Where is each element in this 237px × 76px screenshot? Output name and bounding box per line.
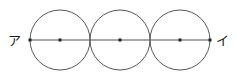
center-dot-middle xyxy=(119,39,122,42)
geometry-figure: ア イ xyxy=(0,0,237,76)
endpoint-dot-right xyxy=(209,39,212,42)
label-point-i: イ xyxy=(216,33,229,48)
label-point-a: ア xyxy=(8,33,21,48)
figure-canvas: ア イ xyxy=(0,0,237,76)
endpoint-dot-left xyxy=(29,39,32,42)
center-dot-right xyxy=(179,39,182,42)
center-dot-left xyxy=(59,39,62,42)
figure-background xyxy=(0,0,237,76)
